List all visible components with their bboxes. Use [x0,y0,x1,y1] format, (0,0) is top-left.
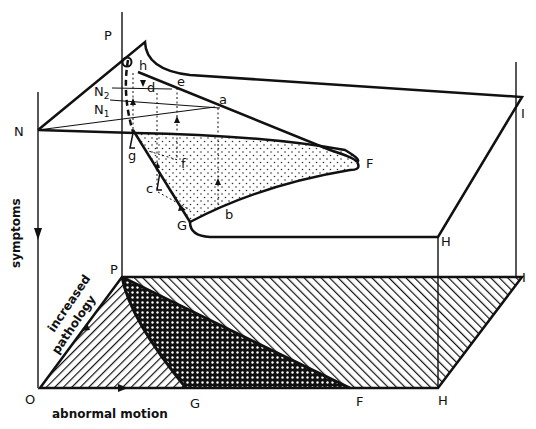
label-P-base: P [110,262,118,277]
arrow-symptoms-icon [34,228,42,240]
label-d: d [147,80,155,95]
label-N1: N1 [94,102,109,119]
label-f: f [181,156,186,171]
axis-label-abnormal-motion: abnormal motion [52,407,168,421]
label-F-base: F [356,394,363,409]
label-H-top: H [441,234,451,249]
label-N: N [14,124,24,139]
label-h: h [139,58,147,73]
label-N2: N2 [94,84,109,101]
label-a: a [219,92,227,107]
label-I-base: I [522,270,526,285]
label-I-top: I [521,106,525,121]
cusp-catastrophe-figure: P N h d e a N2 N1 g f c b F G H I P O G … [0,0,536,429]
label-g: g [128,148,136,163]
label-e: e [177,74,185,89]
label-F-top: F [366,156,373,171]
control-plane [40,277,522,392]
label-H-base: H [438,393,448,408]
label-G-top: G [177,218,187,233]
axis-label-symptoms: symptoms [9,198,23,268]
label-G-base: G [190,396,200,411]
label-O: O [25,392,35,407]
label-b: b [225,207,233,222]
behaviour-surface [38,42,522,237]
label-P-top: P [104,28,112,43]
label-c: c [146,181,153,196]
